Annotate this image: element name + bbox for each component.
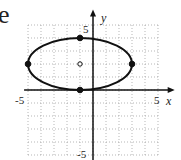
x-tick-max: 5 [154, 94, 160, 106]
y-tick-max: 5 [83, 23, 89, 35]
co-vertex-top-point [77, 35, 83, 41]
y-tick-min: -5 [77, 148, 87, 160]
vertex-right-point [129, 61, 135, 67]
center-point [78, 62, 82, 66]
co-vertex-bottom-point [77, 87, 83, 93]
x-axis-label: x [165, 94, 172, 108]
ellipse-graph: -5 5 5 -5 x y [0, 0, 181, 160]
x-tick-min: -5 [15, 94, 25, 106]
y-axis-label: y [100, 11, 107, 25]
vertex-left-point [25, 61, 31, 67]
